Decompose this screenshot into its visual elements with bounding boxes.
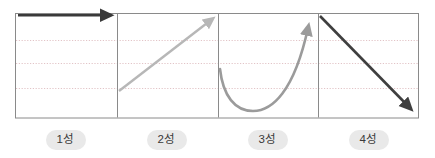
panel-label-cell-3: 3성 (217, 128, 318, 152)
four-panel-trend-figure: 1성 2성 3성 4성 (0, 0, 435, 158)
panel-label-4: 4성 (349, 130, 389, 151)
panel-label-cell-2: 2성 (116, 128, 217, 152)
panel-dividers (118, 14, 319, 118)
gridlines (16, 41, 418, 89)
panel-labels-row: 1성 2성 3성 4성 (15, 128, 419, 152)
panel-label-1: 1성 (46, 130, 86, 151)
panel-label-2: 2성 (147, 130, 187, 151)
panel-4-falling-arrow (320, 16, 409, 107)
panel-label-3: 3성 (248, 130, 288, 151)
panel-2-rising-arrow (119, 20, 211, 91)
panel-label-cell-4: 4성 (318, 128, 419, 152)
panel-label-cell-1: 1성 (15, 128, 116, 152)
plot-frame (16, 14, 419, 119)
panel-3-u-curve-arrow (220, 28, 308, 111)
